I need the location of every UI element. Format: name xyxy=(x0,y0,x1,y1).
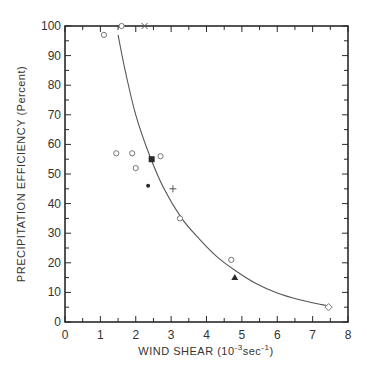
open-circle-marker xyxy=(133,165,138,170)
open-circle-marker xyxy=(177,216,182,221)
open-diamond-marker xyxy=(325,304,332,311)
y-tick-label: 40 xyxy=(48,197,62,211)
filled-triangle-marker xyxy=(231,274,238,280)
x-tick-label: 3 xyxy=(168,328,175,342)
open-circle-marker xyxy=(130,151,135,156)
open-circle-marker xyxy=(101,32,106,37)
x-tick-label: 0 xyxy=(62,328,69,342)
y-tick-label: 80 xyxy=(48,78,62,92)
open-circle-marker xyxy=(229,257,234,262)
x-tick-label: 1 xyxy=(97,328,104,342)
y-tick-label: 60 xyxy=(48,137,62,151)
x-tick-label: 2 xyxy=(132,328,139,342)
filled-dot-marker xyxy=(146,184,150,188)
y-tick-label: 30 xyxy=(48,226,62,240)
x-tick-label: 4 xyxy=(203,328,210,342)
fitted-curve xyxy=(118,35,327,306)
scatter-chart: 0123456780102030405060708090100 WIND SHE… xyxy=(0,0,367,373)
data-points xyxy=(101,23,332,311)
open-circle-marker xyxy=(114,151,119,156)
y-tick-label: 20 xyxy=(48,256,62,270)
x-tick-label: 8 xyxy=(345,328,352,342)
open-circle-marker xyxy=(119,23,124,28)
plus-marker xyxy=(169,185,176,192)
plot-frame xyxy=(65,26,348,322)
x-tick-label: 7 xyxy=(309,328,316,342)
filled-square-marker xyxy=(149,156,155,162)
x-tick-label: 6 xyxy=(274,328,281,342)
y-tick-label: 10 xyxy=(48,285,62,299)
y-tick-label: 100 xyxy=(41,19,61,33)
x-tick-label: 5 xyxy=(239,328,246,342)
y-tick-label: 0 xyxy=(54,315,61,329)
open-circle-marker xyxy=(158,154,163,159)
y-tick-label: 50 xyxy=(48,167,62,181)
axis-tick-labels: 0123456780102030405060708090100 xyxy=(41,19,352,342)
y-tick-label: 70 xyxy=(48,108,62,122)
y-tick-label: 90 xyxy=(48,49,62,63)
axis-ticks xyxy=(65,26,348,322)
x-axis-title: WIND SHEAR (10-3sec-1) xyxy=(138,343,273,357)
y-axis-title: PRECIPITATION EFFICIENCY (Percent) xyxy=(15,66,27,282)
